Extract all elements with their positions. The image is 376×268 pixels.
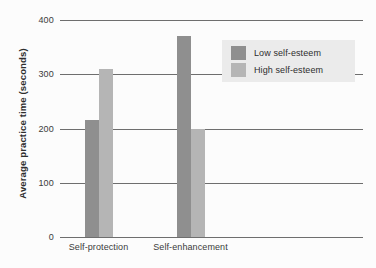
y-tick-label-300: 300 (14, 69, 54, 79)
legend-label-1: High self-esteem (254, 65, 323, 75)
legend-swatch-icon-0 (231, 46, 246, 60)
legend: Low self-esteemHigh self-esteem (222, 40, 355, 82)
y-tick-label-100: 100 (14, 178, 54, 188)
bar-self-protection-high (99, 69, 113, 237)
y-tick-label-400: 400 (14, 15, 54, 25)
legend-label-0: Low self-esteem (254, 48, 321, 58)
bar-self-enhancement-low (177, 36, 191, 237)
y-tick-label-200: 200 (14, 124, 54, 134)
legend-item-0: Low self-esteem (231, 45, 321, 61)
bar-chart: Average practice time (seconds) 40030020… (0, 0, 376, 268)
x-tick-label-1: Self-enhancement (141, 242, 241, 252)
gridline-0 (60, 237, 363, 238)
y-axis-tick-labels: 4003002001000 (12, 20, 54, 237)
legend-swatch-icon-1 (231, 63, 246, 77)
bar-self-protection-low (85, 120, 99, 237)
gridline-400 (60, 20, 363, 21)
legend-item-1: High self-esteem (231, 62, 323, 78)
bar-self-enhancement-high (191, 129, 205, 238)
x-tick-label-0: Self-protection (49, 242, 149, 252)
y-tick-label-0: 0 (14, 232, 54, 242)
